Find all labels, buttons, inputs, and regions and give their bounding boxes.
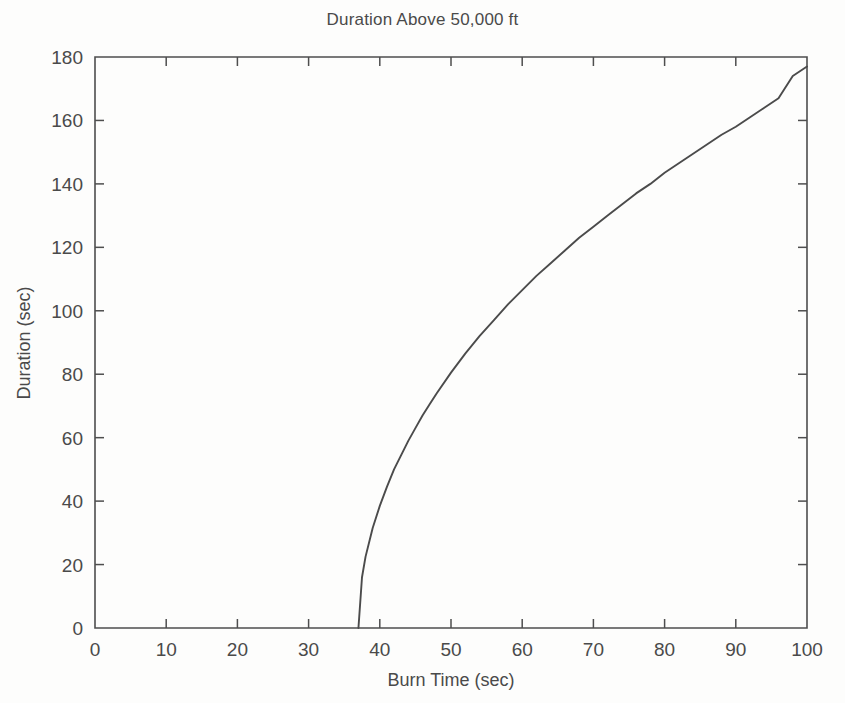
y-tick-label-60: 60 [62,428,83,449]
x-tick-label-60: 60 [512,639,533,660]
y-tick-label-0: 0 [72,618,83,639]
y-tick-label-20: 20 [62,555,83,576]
x-tick-label-0: 0 [90,639,101,660]
y-tick-label-100: 100 [51,301,83,322]
x-axis-ticks [166,57,736,628]
data-series-line [358,67,807,628]
chart-figure: Duration Above 50,000 ft 010203040506070… [0,0,845,703]
x-tick-label-30: 30 [298,639,319,660]
y-tick-label-80: 80 [62,364,83,385]
x-axis-title: Burn Time (sec) [387,670,514,690]
y-tick-label-140: 140 [51,174,83,195]
y-tick-label-180: 180 [51,47,83,68]
y-tick-label-120: 120 [51,237,83,258]
plot-frame [95,57,807,628]
x-tick-label-70: 70 [583,639,604,660]
x-tick-label-80: 80 [654,639,675,660]
x-tick-label-10: 10 [156,639,177,660]
x-tick-label-20: 20 [227,639,248,660]
x-tick-label-50: 50 [440,639,461,660]
x-tick-label-90: 90 [725,639,746,660]
x-axis-tick-labels: 0102030405060708090100 [90,639,823,660]
plot-area: 0102030405060708090100 02040608010012014… [0,0,845,703]
y-axis-tick-labels: 020406080100120140160180 [51,47,83,639]
x-tick-label-40: 40 [369,639,390,660]
y-tick-label-160: 160 [51,110,83,131]
y-axis-ticks [95,120,807,564]
y-tick-label-40: 40 [62,491,83,512]
y-axis-title: Duration (sec) [14,286,34,399]
x-tick-label-100: 100 [791,639,823,660]
